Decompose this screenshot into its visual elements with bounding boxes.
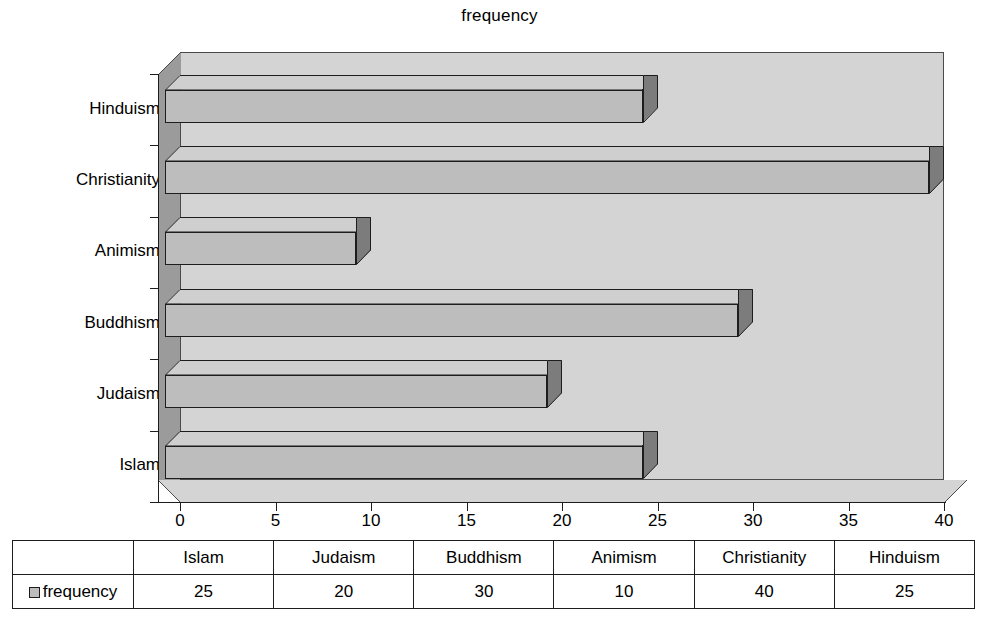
x-axis-tick-label: 25 bbox=[628, 511, 688, 531]
table-header-cell: Judaism bbox=[274, 541, 414, 575]
table-value-cell: 20 bbox=[274, 575, 414, 609]
bar-christianity bbox=[165, 146, 944, 194]
y-axis-label-islam: Islam bbox=[0, 455, 160, 475]
table-value-cell: 40 bbox=[694, 575, 834, 609]
data-table: IslamJudaismBuddhismAnimismChristianityH… bbox=[12, 540, 975, 609]
bars-layer bbox=[158, 52, 946, 502]
x-axis-tick bbox=[180, 502, 181, 511]
bar-front-face bbox=[165, 304, 738, 337]
x-axis-tick bbox=[371, 502, 372, 511]
x-axis-tick-label: 15 bbox=[437, 511, 497, 531]
chart-title: frequency bbox=[0, 6, 999, 26]
bar-hinduism bbox=[165, 75, 658, 123]
x-axis-tick-label: 40 bbox=[914, 511, 974, 531]
x-axis-tick bbox=[658, 502, 659, 511]
bar-cap-outline bbox=[356, 217, 372, 266]
bar-islam bbox=[165, 431, 658, 479]
table-header-cell: Buddhism bbox=[414, 541, 554, 575]
x-axis-tick bbox=[753, 502, 754, 511]
table-header-row: IslamJudaismBuddhismAnimismChristianityH… bbox=[13, 541, 975, 575]
legend-cell: frequency bbox=[13, 575, 134, 609]
table-value-cell: 25 bbox=[134, 575, 274, 609]
x-axis-tick-label: 35 bbox=[819, 511, 879, 531]
bar-front-face bbox=[165, 375, 547, 408]
y-axis-tick bbox=[150, 502, 159, 503]
bar-front-face bbox=[165, 232, 356, 265]
bar-front-face bbox=[165, 446, 643, 479]
x-axis-tick-label: 0 bbox=[150, 511, 210, 531]
legend-label: frequency bbox=[43, 582, 118, 601]
bar-top-outline bbox=[165, 75, 658, 91]
bar-top-outline bbox=[165, 289, 753, 305]
chart-container: frequency HinduismChristianityAnimismBud… bbox=[0, 0, 999, 621]
table-value-row: frequency 252030104025 bbox=[13, 575, 975, 609]
y-axis-tick bbox=[150, 145, 159, 146]
table-value-cell: 10 bbox=[554, 575, 694, 609]
bar-front-face bbox=[165, 90, 643, 123]
bar-buddhism bbox=[165, 289, 753, 337]
bar-top-outline bbox=[165, 217, 371, 233]
bar-animism bbox=[165, 217, 371, 265]
x-axis-tick bbox=[849, 502, 850, 511]
bar-judaism bbox=[165, 360, 562, 408]
data-table-container: IslamJudaismBuddhismAnimismChristianityH… bbox=[12, 540, 975, 609]
table-header-cell: Hinduism bbox=[834, 541, 974, 575]
table-header-cell: Christianity bbox=[694, 541, 834, 575]
y-axis-label-animism: Animism bbox=[0, 241, 160, 261]
bar-front-face bbox=[165, 161, 929, 194]
bar-top-outline bbox=[165, 146, 944, 162]
bar-cap-outline bbox=[643, 75, 659, 124]
x-axis-tick-label: 30 bbox=[723, 511, 783, 531]
x-axis-tick-label: 10 bbox=[341, 511, 401, 531]
x-axis-tick bbox=[944, 502, 945, 511]
bar-top-outline bbox=[165, 360, 562, 376]
table-value-cell: 25 bbox=[834, 575, 974, 609]
bar-cap-outline bbox=[738, 289, 754, 338]
y-axis-label-judaism: Judaism bbox=[0, 384, 160, 404]
x-axis-tick-label: 20 bbox=[532, 511, 592, 531]
y-axis-label-christianity: Christianity bbox=[0, 170, 160, 190]
bar-cap-outline bbox=[929, 146, 945, 195]
plot-corner-bottom-right bbox=[944, 480, 967, 503]
table-header-cell: Animism bbox=[554, 541, 694, 575]
x-axis-tick bbox=[467, 502, 468, 511]
x-axis-tick-label: 5 bbox=[246, 511, 306, 531]
y-axis-label-buddhism: Buddhism bbox=[0, 313, 160, 333]
x-axis-tick bbox=[276, 502, 277, 511]
bar-cap-outline bbox=[643, 431, 659, 480]
table-corner-blank bbox=[13, 541, 134, 575]
y-axis-tick bbox=[150, 359, 159, 360]
y-axis-tick bbox=[150, 288, 159, 289]
plot-area bbox=[158, 52, 946, 502]
y-axis-tick bbox=[150, 74, 159, 75]
bar-top-outline bbox=[165, 431, 658, 447]
x-axis-tick bbox=[562, 502, 563, 511]
y-axis-tick bbox=[150, 431, 159, 432]
y-axis-label-hinduism: Hinduism bbox=[0, 99, 160, 119]
table-value-cell: 30 bbox=[414, 575, 554, 609]
table-header-cell: Islam bbox=[134, 541, 274, 575]
bar-cap-outline bbox=[547, 360, 563, 409]
legend-swatch-icon bbox=[29, 587, 40, 598]
y-axis-tick bbox=[150, 217, 159, 218]
